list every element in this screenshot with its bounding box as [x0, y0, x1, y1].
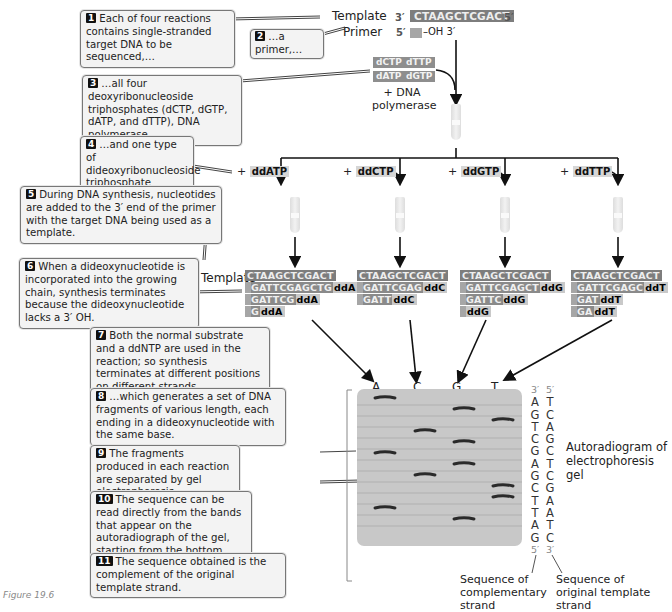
- dntp-chip-datp: dATP: [373, 71, 404, 82]
- primer-5prime: 5′: [396, 27, 406, 38]
- synthesized-strand: GATTCGAGCddT: [571, 282, 668, 293]
- template-strand: CTAAGCTCGACT: [245, 270, 336, 281]
- reaction-tube-t: [613, 197, 623, 233]
- primer-label: Primer: [343, 25, 382, 39]
- step-number: 5: [26, 189, 36, 199]
- synthesized-strand: ddG: [460, 306, 491, 317]
- step-number: 4: [86, 139, 96, 149]
- template-sequence: CTAAGCTCGACT: [410, 11, 514, 22]
- ddntp-label-t: + ddTTP: [560, 165, 612, 178]
- step-5-box: 5During DNA synthesis, nucleotides are a…: [20, 186, 222, 244]
- step-number: 3: [88, 78, 98, 88]
- step-number: 7: [96, 330, 106, 340]
- step-2-box: 2…a primer,…: [250, 29, 324, 59]
- synthesized-strand: GAddT: [571, 306, 617, 317]
- step-10-box: 10The sequence can be read directly from…: [90, 491, 252, 562]
- dna-polymerase-label: + DNA polymerase: [372, 86, 432, 112]
- primer-block: [410, 28, 422, 38]
- gel-band-g: [454, 463, 474, 464]
- step-number: 6: [25, 261, 35, 271]
- complementary-strand-label: Sequence of complementary strand: [460, 573, 540, 612]
- leader-1: [230, 16, 320, 18]
- leader-3: [240, 70, 370, 80]
- original-strand-label: Sequence of original template strand: [556, 573, 656, 612]
- gel-band-t: [493, 485, 513, 486]
- step-text: The fragments produced in each reaction …: [96, 448, 229, 497]
- gel-band-g: [454, 518, 474, 519]
- reaction-tube-g: [500, 197, 510, 233]
- figure-number: Figure 19.6: [3, 590, 54, 600]
- step-text: During DNA synthesis, nucleotides are ad…: [26, 189, 216, 238]
- synthesized-strand: GddA: [245, 306, 285, 317]
- gel-band-t: [493, 419, 513, 420]
- synthesized-strand: GATTCGddA: [245, 294, 320, 305]
- complementary-base: G: [529, 445, 541, 457]
- template-5prime: 5′: [504, 12, 514, 23]
- autoradiogram-label: Autoradiogram of electrophoresis gel: [566, 440, 670, 482]
- template-strand: CTAAGCTCGACT: [571, 270, 662, 281]
- template-label: Template: [332, 9, 387, 23]
- step-text: The sequence can be read directly from t…: [96, 494, 241, 556]
- gel-band-a: [375, 452, 395, 453]
- original-base: T: [544, 519, 556, 531]
- step-text: …all four deoxyribonucleoside triphospha…: [88, 78, 227, 140]
- leader-9: [320, 451, 356, 452]
- step-number: 2: [255, 31, 265, 41]
- synthesized-strand: GATTCddG: [460, 294, 528, 305]
- step-8-box: 8…which generates a set of DNA fragments…: [90, 388, 286, 446]
- dntp-chip-dgtp: dGTP: [403, 71, 435, 82]
- synthesized-strand: GATTCGAGCTddG: [460, 282, 565, 293]
- autoradiogram-gel: [357, 389, 522, 546]
- step-number: 11: [96, 556, 113, 566]
- primer-oh: –OH 3′: [423, 26, 455, 37]
- gel-bands: [357, 389, 522, 546]
- gel-band-a: [375, 507, 395, 508]
- gel-band-g: [454, 408, 474, 409]
- step-number: 1: [86, 13, 96, 23]
- original-base: T: [544, 396, 556, 408]
- step-number: 10: [96, 494, 113, 504]
- synthesized-strand: GATddT: [571, 294, 623, 305]
- step-number: 9: [96, 448, 106, 458]
- ddntp-label-c: + ddCTP: [343, 165, 396, 178]
- gel-band-t: [493, 496, 513, 497]
- original-base: C: [544, 445, 556, 457]
- template-strand: CTAAGCTCGACT: [460, 270, 551, 281]
- reaction-tube-c: [395, 197, 405, 233]
- reaction-tube-a: [290, 197, 300, 233]
- gel-band-c: [415, 474, 435, 475]
- complementary-base: A: [529, 396, 541, 408]
- step-number: 8: [96, 391, 106, 401]
- complementary-base: C: [529, 482, 541, 494]
- template-strand: CTAAGCTCGACT: [357, 270, 448, 281]
- step-text: …which generates a set of DNA fragments …: [96, 391, 274, 440]
- original-sequence-column: 5′ TCAGCTCGAATC 3′: [544, 384, 556, 556]
- ddntp-label-g: + ddGTP: [448, 165, 501, 178]
- step-text: The sequence obtained is the complement …: [96, 556, 266, 593]
- template-3prime: 3′: [395, 12, 405, 23]
- synthesized-strand: GATTCGAGCTGddA: [245, 282, 358, 293]
- reaction-tube-main: [451, 104, 461, 140]
- dntp-chip-dttp: dTTP: [403, 57, 435, 68]
- step-text: Each of four reactions contains single-s…: [86, 13, 212, 62]
- dntp-chip-dctp: dCTP: [373, 57, 405, 68]
- synthesized-strand: GATTCGAGddC: [357, 282, 447, 293]
- step-6-box: 6When a dideoxynucleotide is incorporate…: [19, 258, 199, 329]
- step-text: When a dideoxynucleotide is incorporated…: [25, 261, 185, 323]
- gel-band-a: [375, 397, 395, 398]
- ddntp-label-a: + ddATP: [237, 165, 289, 178]
- gel-band-g: [454, 441, 474, 442]
- step-11-box: 11The sequence obtained is the complemen…: [90, 553, 286, 598]
- complementary-base: G: [529, 532, 541, 544]
- gel-band-c: [415, 430, 435, 431]
- step-1-box: 1Each of four reactions contains single-…: [80, 10, 235, 68]
- complementary-sequence-column: 3′ AGTCGAGCTTAG 5′: [529, 384, 541, 556]
- synthesized-strand: GATTddC: [357, 294, 417, 305]
- complementary-base: A: [529, 519, 541, 531]
- step-text: Both the normal substrate and a ddNTP ar…: [96, 330, 260, 392]
- original-base: C: [544, 532, 556, 544]
- original-base: G: [544, 482, 556, 494]
